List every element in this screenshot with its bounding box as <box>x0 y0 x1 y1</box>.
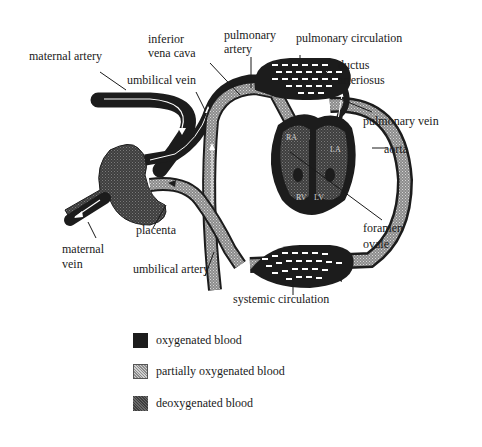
label-pulmonary-artery-line1: pulmonary <box>224 29 276 42</box>
label-foramen-ovale-line2: ovale <box>363 238 389 251</box>
chamber-ra-label: RA <box>286 133 297 142</box>
legend-item-deoxygenated: deoxygenated blood <box>133 396 253 411</box>
legend-swatch-deoxygenated <box>133 396 148 411</box>
label-umbilical-vein: umbilical vein <box>127 74 196 87</box>
label-foramen-ovale-line1: foramen <box>363 222 403 235</box>
label-pulmonary-vein: pulmonary vein <box>363 115 439 128</box>
label-ductus-arteriosus-line2: arteriosus <box>338 74 385 87</box>
legend-swatch-oxygenated <box>133 333 148 348</box>
label-aorta: aorta <box>384 143 408 156</box>
legend-label: deoxygenated blood <box>156 396 253 411</box>
chamber-la-label: LA <box>330 145 341 154</box>
legend-label: partially oxygenated blood <box>156 364 285 379</box>
label-inferior-vena-cava-line1: inferior <box>148 33 184 46</box>
legend-label: oxygenated blood <box>156 333 242 348</box>
label-umbilical-artery: umbilical artery <box>133 263 209 276</box>
legend-swatch-partially-oxygenated <box>133 364 148 379</box>
label-systemic-circulation: systemic circulation <box>233 293 329 306</box>
label-placenta: placenta <box>136 224 176 237</box>
fetal-circulation-diagram: RA LA RV LV <box>0 0 482 447</box>
label-ductus-arteriosus-line1: ductus <box>338 59 369 72</box>
chamber-lv-label: LV <box>314 193 324 202</box>
heart: RA LA RV LV <box>271 114 356 215</box>
legend-item-partially-oxygenated: partially oxygenated blood <box>133 364 285 379</box>
systemic-circulation <box>250 245 354 288</box>
label-maternal-artery: maternal artery <box>29 50 102 63</box>
label-pulmonary-artery-line2: artery <box>224 43 252 56</box>
label-maternal-vein-line2: vein <box>62 258 83 271</box>
label-pulmonary-circulation: pulmonary circulation <box>296 32 402 45</box>
pulmonary-circulation <box>254 58 350 100</box>
chamber-rv-label: RV <box>296 193 307 202</box>
label-inferior-vena-cava-line2: vena cava <box>148 47 196 60</box>
legend-item-oxygenated: oxygenated blood <box>133 333 242 348</box>
label-maternal-vein-line1: maternal <box>62 243 104 256</box>
